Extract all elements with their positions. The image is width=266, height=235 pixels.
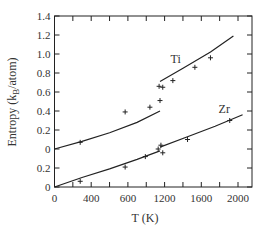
y-axis-title: Entropy (kB/atom) — [5, 58, 21, 147]
y-tick-label: 1.2 — [37, 29, 51, 41]
x-tick-label: 0 — [52, 192, 58, 204]
y-tick-label: 0.2 — [37, 124, 51, 136]
plus-marker-icon — [143, 154, 148, 159]
y-tick-label: 1.4 — [37, 10, 51, 22]
y-tick-label: 0.6 — [37, 86, 51, 98]
x-axis-title: T (K) — [132, 211, 159, 225]
plus-marker-icon — [123, 165, 128, 170]
x-tick-label: 600 — [120, 192, 137, 204]
plus-marker-icon — [170, 78, 175, 83]
plus-marker-icon — [123, 109, 128, 114]
plus-marker-icon — [147, 105, 152, 110]
x-tick-label: 400 — [83, 192, 100, 204]
plus-marker-icon — [192, 65, 197, 70]
entropy-chart: 0400600120016002000 00.200.20.40.60.81.0… — [0, 0, 266, 235]
plus-marker-icon — [160, 85, 165, 90]
plus-marker-icon — [78, 140, 83, 145]
plus-marker-icon — [160, 150, 165, 155]
series-label-ti: Ti — [170, 52, 181, 66]
plus-marker-icon — [227, 118, 232, 123]
plus-marker-icon — [158, 98, 163, 103]
y-tick-label: 0.8 — [37, 67, 51, 79]
plus-marker-icon — [78, 179, 83, 184]
y-tick-label: 0 — [45, 143, 51, 155]
x-tick-label: 1200 — [154, 192, 177, 204]
plus-marker-icon — [157, 84, 162, 89]
series-label-zr: Zr — [219, 102, 230, 116]
series-lines — [55, 36, 243, 187]
x-tick-label: 1600 — [190, 192, 213, 204]
y-tick-label: 0 — [45, 181, 51, 193]
x-tick-label: 2000 — [227, 192, 250, 204]
plus-marker-icon — [158, 143, 163, 148]
y-tick-label: 0.2 — [37, 162, 51, 174]
series-line-ti — [55, 111, 161, 149]
plus-marker-icon — [208, 55, 213, 60]
y-tick-label: 0.4 — [37, 105, 51, 117]
series-points — [78, 55, 233, 184]
series-labels: TiZr — [170, 52, 229, 116]
y-tick-label: 1.0 — [37, 48, 51, 60]
